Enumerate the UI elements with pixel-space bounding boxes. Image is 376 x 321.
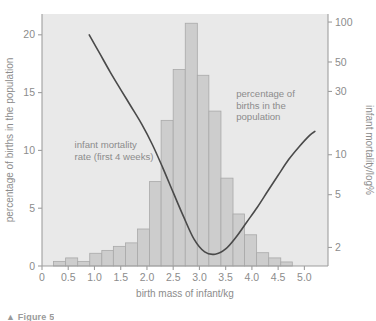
y-axis-right-tick-label: 10 (335, 148, 347, 160)
y-axis-right-title: infant mortality/log% (364, 105, 375, 195)
histogram-bar (269, 258, 281, 266)
y-axis-left-tick-label: 20 (23, 28, 35, 40)
histogram-bar (113, 246, 125, 266)
chart-canvas: 05101520percentage of births in the popu… (0, 0, 376, 300)
x-axis-tick-label: 0 (39, 271, 45, 283)
y-axis-right-tick-label: 30 (335, 85, 347, 97)
annotation-line: population (236, 111, 280, 122)
y-axis-left-tick-label: 15 (23, 86, 35, 98)
y-axis-left-tick-label: 5 (29, 202, 35, 214)
y-axis-right-tick-label: 5 (335, 188, 341, 200)
x-axis-tick-label: 2.5 (166, 271, 181, 283)
x-axis-tick-label: 1.0 (87, 271, 102, 283)
x-axis-tick-label: 4.0 (245, 271, 260, 283)
histogram-bar (245, 235, 257, 266)
histogram-bar (66, 258, 78, 266)
y-axis-right-tick-label: 100 (335, 16, 353, 28)
histogram-bar (173, 69, 185, 266)
histogram-bar (161, 120, 173, 266)
figure-caption: ▲ Figure 5 (6, 312, 54, 321)
x-axis: 00.51.01.52.02.53.03.54.04.55.0birth mas… (39, 266, 328, 299)
histogram-bar (90, 253, 102, 266)
annotation-line: rate (first 4 weeks) (75, 151, 154, 162)
histogram-bar (257, 253, 269, 266)
histogram-bar (138, 229, 150, 266)
x-axis-tick-label: 3.5 (218, 271, 233, 283)
figure-container: 05101520percentage of births in the popu… (0, 0, 376, 321)
histogram-bar (78, 261, 90, 266)
x-axis-tick-label: 1.5 (113, 271, 128, 283)
y-axis-right: 25103050100infant mortality/log% (328, 14, 375, 266)
histogram-bar (281, 262, 293, 266)
x-axis-title: birth mass of infant/kg (136, 288, 234, 299)
y-axis-left: 05101520percentage of births in the popu… (4, 14, 42, 272)
y-axis-left-tick-label: 10 (23, 144, 35, 156)
histogram-bar (102, 250, 114, 266)
x-axis-tick-label: 5.0 (297, 271, 312, 283)
histogram-bar (185, 23, 197, 266)
histogram-bar (197, 75, 209, 266)
y-axis-left-title: percentage of births in the population (4, 58, 15, 223)
x-axis-tick-label: 3.0 (192, 271, 207, 283)
histogram-bar (54, 261, 66, 266)
x-axis-tick-label: 0.5 (61, 271, 76, 283)
histogram-bar (150, 182, 162, 266)
histogram-bar (125, 243, 137, 266)
y-axis-left-tick-label: 0 (29, 260, 35, 272)
histogram-bar (209, 111, 221, 266)
annotation-line: births in the (236, 100, 286, 111)
y-axis-right-tick-label: 50 (335, 56, 347, 68)
histogram-bar (221, 178, 233, 266)
x-axis-tick-label: 4.5 (271, 271, 286, 283)
annotation-line: infant mortality (75, 139, 138, 150)
annotation-line: percentage of (236, 88, 295, 99)
y-axis-right-tick-label: 2 (335, 241, 341, 253)
x-axis-tick-label: 2.0 (140, 271, 155, 283)
